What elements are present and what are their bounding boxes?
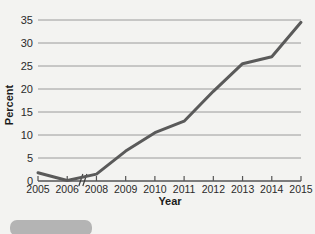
x-axis-tick-label: 2011 — [173, 183, 196, 195]
x-axis-tick-label: 2013 — [231, 183, 255, 195]
x-axis-title: Year — [158, 195, 182, 207]
x-axis-tick-label: 2006 — [56, 183, 80, 195]
y-axis-tick-label: 15 — [21, 106, 33, 118]
y-axis-tick-label: 10 — [21, 129, 33, 141]
x-axis-tick-label: 2009 — [114, 183, 138, 195]
x-axis-tick-label: 2010 — [143, 183, 167, 195]
y-axis-tick-label: 20 — [21, 83, 33, 95]
y-axis-tick-label: 25 — [21, 60, 33, 72]
x-axis-tick-label: 2015 — [289, 183, 313, 195]
x-axis-tick-label: 2014 — [260, 183, 284, 195]
bottom-caption-bar — [10, 220, 92, 234]
chart-figure: 05101520253035 Percent 20052006200820092… — [0, 0, 315, 234]
x-axis-tick-label: 2008 — [85, 183, 109, 195]
y-axis-title: Percent — [3, 84, 15, 125]
x-axis-tick-label: 2012 — [202, 183, 226, 195]
line-chart: 05101520253035 Percent 20052006200820092… — [0, 0, 315, 234]
x-axis-tick-label: 2005 — [26, 183, 50, 195]
y-axis-tick-label: 30 — [21, 37, 33, 49]
y-axis-tick-label: 35 — [21, 14, 33, 26]
y-axis-tick-label: 5 — [27, 152, 33, 164]
